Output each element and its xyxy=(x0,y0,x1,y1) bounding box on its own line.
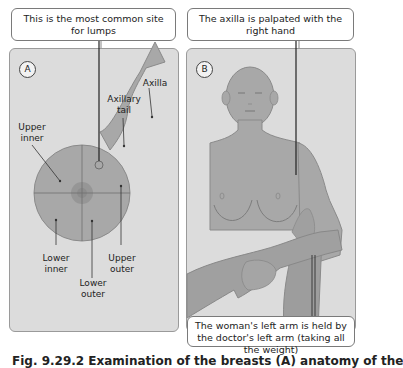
label-axilla: Axilla xyxy=(135,78,175,89)
label-upper-outer: Upper outer xyxy=(104,253,140,275)
callout-arm-held: The woman's left arm is held by the doct… xyxy=(187,316,355,347)
label-axillary-tail: Axillary tail xyxy=(106,94,142,116)
label-lower-inner: Lower inner xyxy=(38,253,74,275)
label-upper-inner: Upper inner xyxy=(16,122,48,144)
label-lower-outer: Lower outer xyxy=(75,278,111,300)
callout-axilla-palpated: The axilla is palpated with the right ha… xyxy=(187,8,354,41)
figure-caption: Fig. 9.29.2 Examination of the breasts (… xyxy=(12,354,403,368)
callout-common-site: This is the most common site for lumps xyxy=(11,8,176,41)
patient-figure xyxy=(187,67,342,330)
